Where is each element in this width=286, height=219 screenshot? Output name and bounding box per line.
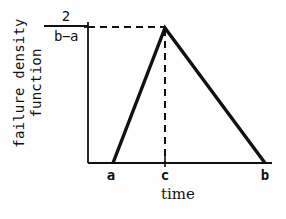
x-axis-tick-label-b: b <box>255 167 275 183</box>
density-curve <box>113 28 265 163</box>
x-axis-label: time <box>143 185 213 203</box>
x-axis-tick-label-c: c <box>155 167 175 183</box>
x-axis-tick-label-a: a <box>101 167 121 183</box>
failure-density-figure: failure density function 2 b−a a c b tim… <box>0 0 286 219</box>
